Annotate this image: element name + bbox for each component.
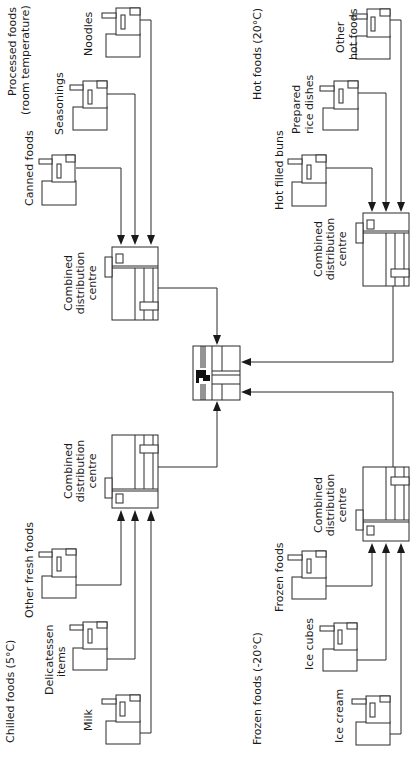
factory-icon-noodles (102, 8, 140, 57)
factory-label-hot-filled-buns: Hot filled buns (273, 130, 286, 210)
svg-text:Hot foods (20°C): Hot foods (20°C) (251, 8, 264, 100)
svg-text:hot foods: hot foods (347, 8, 360, 60)
factory-label-canned-foods: Canned foods (23, 130, 36, 206)
svg-text:centre: centre (86, 453, 99, 488)
svg-text:rice dishes: rice dishes (303, 75, 316, 134)
factory-label-ice-cubes: Ice cubes (303, 618, 316, 670)
group-title-frozen: Frozen foods (-20°C) (251, 632, 264, 745)
factory-label-other-hot-foods: Other hot foods (334, 8, 360, 60)
factory-label-frozen-foods: Frozen foods (273, 542, 286, 612)
factory-icon-frozen-foods (288, 551, 326, 599)
factory-label-prepared-rice-dishes: Prepared rice dishes (290, 75, 316, 134)
distribution-centre-chilled (105, 435, 158, 508)
distribution-centre-label-frozen: Combined distribution centre (312, 474, 349, 537)
distribution-centre-processed (105, 247, 158, 320)
factory-label-delicatessen-items: Delicatessen items (43, 625, 68, 695)
svg-text:Prepared: Prepared (290, 85, 303, 134)
factory-icon-seasonings (70, 81, 107, 130)
svg-text:Chilled foods (5°C): Chilled foods (5°C) (4, 640, 17, 743)
distribution-centre-frozen (356, 467, 409, 541)
distribution-centre-label-chilled: Combined distribution centre (62, 440, 99, 503)
svg-text:(room temperature): (room temperature) (19, 5, 32, 115)
group-title-processed: Processed foods (room temperature) (6, 5, 32, 115)
factory-label-other-fresh-foods: Other fresh foods (23, 522, 36, 618)
svg-text:centre: centre (336, 487, 349, 522)
factory-icon-delicatessen-items (70, 622, 107, 670)
factory-label-noodles: Noodles (82, 12, 95, 56)
distribution-centre-hot (356, 213, 409, 286)
factory-label-seasonings: Seasonings (53, 72, 66, 135)
svg-text:Processed foods: Processed foods (6, 7, 19, 96)
svg-text:items: items (55, 646, 68, 677)
factory-icon-hot-filled-buns (288, 155, 326, 206)
factory-icon-prepared-rice-dishes (320, 81, 358, 130)
factory-icon-ice-cubes (320, 623, 357, 671)
svg-text:centre: centre (336, 231, 349, 266)
svg-text:Frozen foods (-20°C): Frozen foods (-20°C) (251, 632, 264, 745)
svg-text:centre: centre (86, 265, 99, 300)
food-distribution-diagram: Processed foods (room temperature) Hot f… (0, 0, 419, 770)
factory-icon-canned-foods (39, 155, 76, 205)
group-title-chilled: Chilled foods (5°C) (4, 640, 17, 743)
factory-icon-milk (102, 695, 140, 744)
factory-label-ice-cream: Ice cream (333, 689, 346, 743)
distribution-centre-label-hot: Combined distribution centre (312, 218, 349, 281)
factory-icon-ice-cream (352, 696, 390, 745)
convenience-store-icon[interactable] (193, 346, 240, 400)
group-title-hot: Hot foods (20°C) (251, 8, 264, 100)
factory-icon-other-fresh-foods (39, 549, 76, 598)
svg-text:Other: Other (334, 21, 347, 53)
distribution-centre-label-processed: Combined distribution centre (62, 252, 99, 315)
factory-label-milk: Milk (82, 708, 95, 731)
